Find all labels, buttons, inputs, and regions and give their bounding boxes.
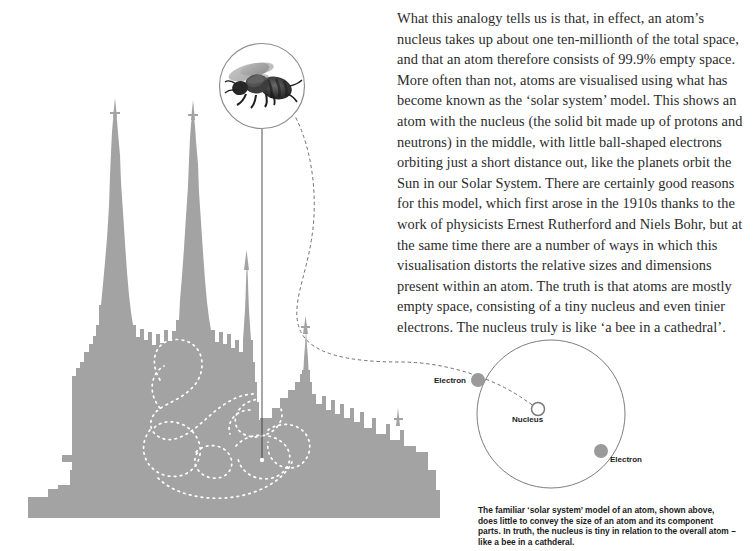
- electron-right-marker: [594, 444, 608, 458]
- bee-leader-endpoint: [260, 458, 264, 462]
- page-root: What this analogy tells us is that, in e…: [0, 0, 754, 551]
- electron-orbit-circle: [477, 340, 625, 488]
- bee-inset: [220, 44, 305, 129]
- electron-left-marker: [471, 373, 485, 387]
- electron-left-label: Electron: [434, 376, 466, 385]
- electron-right-label: Electron: [610, 455, 642, 464]
- cathedral-silhouette: [28, 98, 440, 518]
- figure-caption: The familiar ‘solar system’ model of an …: [478, 505, 736, 547]
- body-paragraph: What this analogy tells us is that, in e…: [397, 8, 747, 338]
- nucleus-label: Nucleus: [512, 415, 543, 424]
- atom-diagram: [471, 340, 625, 488]
- nucleus-marker: [532, 403, 545, 416]
- body-text-block: What this analogy tells us is that, in e…: [397, 8, 747, 338]
- caption-text: The familiar ‘solar system’ model of an …: [478, 505, 736, 547]
